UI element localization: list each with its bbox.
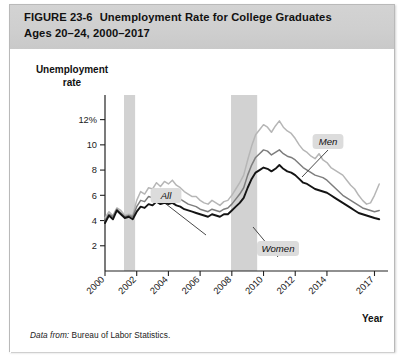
x-tick-label: 2000	[85, 274, 107, 296]
y-tick-label: 6	[92, 191, 97, 201]
x-tick-label: 2014	[307, 274, 329, 296]
figure-number: 23-6	[70, 11, 93, 23]
figure-panel: FIGURE23-6Unemployment Rate for College …	[9, 4, 395, 352]
figure-title-line1: Unemployment Rate for College Graduates	[100, 11, 332, 23]
x-tick-label: 2006	[180, 274, 202, 296]
figure-title: FIGURE23-6Unemployment Rate for College …	[24, 10, 384, 41]
callout-label-women: Women	[261, 243, 294, 254]
source-prefix: Data from:	[30, 330, 69, 340]
y-axis-title-line2: rate	[63, 77, 81, 88]
y-tick-label: 12%	[78, 115, 97, 125]
x-tick-label: 2008	[212, 274, 234, 296]
x-tick-label: 2017	[354, 274, 376, 296]
figure-body: Unemployment rate Year 24681012%20002002…	[10, 49, 394, 353]
recession-band-recession-2008	[231, 95, 257, 271]
x-tick-label: 2010	[243, 274, 265, 296]
y-tick-label: 2	[92, 241, 97, 251]
chart-svg: 24681012%2000200220042006200820102012201…	[10, 49, 396, 353]
figure-title-line2: Ages 20–24, 2000–2017	[24, 27, 150, 39]
x-tick-label: 2012	[275, 274, 297, 296]
recession-band-recession-2001	[124, 95, 135, 271]
x-tick-label: 2002	[116, 274, 138, 296]
chart-plot-area: Unemployment rate Year 24681012%20002002…	[10, 49, 396, 353]
figure-header: FIGURE23-6Unemployment Rate for College …	[10, 5, 394, 49]
source-divider	[11, 352, 395, 353]
figure-label: FIGURE	[24, 11, 67, 23]
x-axis-title: Year	[362, 313, 383, 324]
callout-leader-men	[302, 150, 328, 177]
y-axis-title-line1: Unemployment	[36, 64, 108, 75]
callout-label-all: All	[160, 190, 173, 201]
y-tick-label: 10	[87, 140, 97, 150]
callout-label-men: Men	[319, 136, 338, 147]
y-tick-label: 8	[92, 165, 97, 175]
y-axis-title: Unemployment rate	[24, 64, 120, 89]
figure-source: Data from: Bureau of Labor Statistics.	[30, 330, 170, 340]
y-tick-label: 4	[92, 216, 97, 226]
x-tick-label: 2004	[148, 274, 170, 296]
source-text: Bureau of Labor Statistics.	[72, 330, 171, 340]
